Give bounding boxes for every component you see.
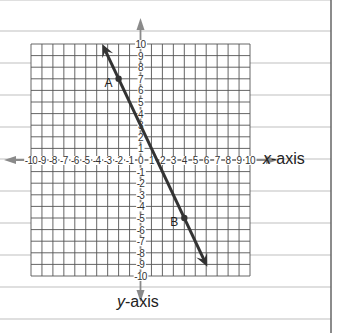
point-b [181,215,187,221]
y-tick-label: -3 [137,190,146,201]
x-tick-label: -7 [60,155,69,166]
y-tick-label: -8 [137,248,146,259]
x-axis-left-arrow-icon [4,156,16,164]
x-tick-label: -4 [93,155,102,166]
coordinate-plane-figure: -10-9-8-7-6-5-4-3-2-1012345678910-10-9-8… [0,0,341,333]
x-tick-label: -2 [115,155,124,166]
y-tick-label: -7 [137,236,146,247]
y-tick-label: -9 [137,259,146,270]
y-tick-label: -2 [137,178,146,189]
x-tick-label: -6 [71,155,80,166]
y-tick-label: -6 [137,225,146,236]
x-tick-label: 10 [245,155,256,166]
x-tick-label: -8 [49,155,58,166]
x-axis-label: x-axis [262,150,305,167]
y-tick-label: -1 [137,167,146,178]
y-tick-label: -10 [134,271,148,282]
x-tick-label: -10 [25,155,39,166]
y-axis-up-arrow-icon [137,18,145,30]
y-axis-label: y-axis [116,293,159,310]
point-label-b: B [170,215,178,229]
x-tick-label: -5 [82,155,91,166]
x-tick-label: -1 [126,155,135,166]
point-label-a: A [105,76,113,90]
y-tick-label: -4 [137,201,146,212]
y-tick-label: -5 [137,213,146,224]
x-tick-label: -3 [104,155,113,166]
point-a [115,76,121,82]
x-tick-label: -9 [38,155,47,166]
y-tick-label: 10 [136,39,147,50]
